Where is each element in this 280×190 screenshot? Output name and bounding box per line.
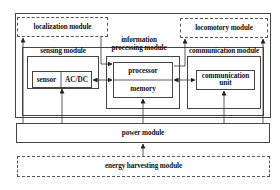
memory-component: memory xyxy=(113,80,173,98)
communication-unit-component: communication unit xyxy=(196,70,255,90)
energy-harvesting-module-label: energy harvesting module xyxy=(17,162,270,170)
info-processing-label-2: processing module xyxy=(106,44,172,52)
communication-unit-line2: unit xyxy=(219,80,231,88)
localization-module-label: localization module xyxy=(17,23,108,31)
acdc-component: AC/DC xyxy=(61,71,92,88)
communication-module-label: communication module xyxy=(186,47,262,55)
sensor-component: sensor xyxy=(32,71,61,88)
processor-component: processor xyxy=(113,62,173,80)
power-module-label: power module xyxy=(16,129,270,137)
locomotory-module-label: locomotory module xyxy=(180,24,268,32)
sensing-module-label: sensing module xyxy=(27,47,99,55)
info-processing-label-1: information xyxy=(106,36,172,44)
